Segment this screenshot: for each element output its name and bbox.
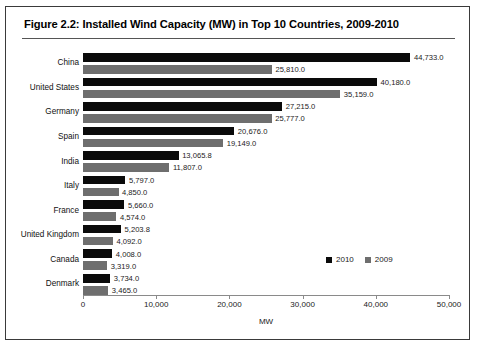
bar-2009-canada	[83, 261, 107, 270]
category-label: Spain	[58, 133, 79, 141]
bar-2010-china	[83, 53, 410, 62]
category-label: India	[61, 158, 79, 166]
bar-2009-spain	[83, 139, 223, 148]
bar-value-label: 5,203.8	[125, 226, 150, 234]
category-label: Germany	[45, 108, 79, 116]
x-tick-label: 0	[81, 301, 85, 309]
x-tick-mark	[229, 295, 230, 299]
category-label: United States	[30, 84, 79, 92]
x-tick-mark	[156, 295, 157, 299]
bar-2010-italy	[83, 176, 125, 185]
bar-value-label: 4,574.0	[120, 214, 145, 222]
bar-2009-united-states	[83, 90, 340, 99]
x-tick-label: 20,000	[217, 301, 241, 309]
bar-value-label: 4,850.0	[122, 189, 147, 197]
category-label: Italy	[64, 182, 79, 190]
bar-2009-denmark	[83, 286, 108, 295]
category-label: Canada	[50, 256, 79, 264]
bar-value-label: 3,319.0	[111, 263, 136, 271]
bar-2010-united-states	[83, 78, 377, 87]
legend-label-2009: 2009	[375, 256, 393, 264]
x-tick-label: 10,000	[144, 301, 168, 309]
bar-value-label: 3,734.0	[114, 275, 139, 283]
bar-2009-italy	[83, 188, 119, 197]
bar-2010-denmark	[83, 274, 110, 283]
bar-value-label: 13,065.8	[182, 152, 212, 160]
bar-value-label: 27,215.0	[286, 103, 316, 111]
x-tick-mark	[303, 295, 304, 299]
bar-2009-india	[83, 163, 169, 172]
bar-2010-france	[83, 200, 124, 209]
bar-2009-china	[83, 65, 272, 74]
x-axis-title: MW	[83, 317, 449, 326]
bar-value-label: 5,660.0	[128, 202, 153, 210]
category-label: France	[54, 207, 79, 215]
x-tick-label: 40,000	[364, 301, 388, 309]
legend-swatch-2009	[365, 257, 371, 263]
x-tick-mark	[449, 295, 450, 299]
bar-2010-germany	[83, 102, 282, 111]
x-tick-mark	[83, 295, 84, 299]
x-axis-line	[83, 295, 449, 296]
bar-value-label: 5,797.0	[129, 177, 154, 185]
bar-2010-spain	[83, 127, 234, 136]
bar-value-label: 3,465.0	[112, 287, 137, 295]
bar-2010-canada	[83, 249, 112, 258]
category-label: China	[58, 59, 79, 67]
bar-value-label: 19,149.0	[227, 140, 257, 148]
x-tick-label: 30,000	[290, 301, 314, 309]
bar-2010-united-kingdom	[83, 225, 121, 234]
chart-legend: 2010 2009	[326, 256, 393, 264]
bar-value-label: 4,092.0	[116, 238, 141, 246]
bar-value-label: 35,159.0	[344, 91, 374, 99]
bar-value-label: 44,733.0	[414, 54, 444, 62]
bar-2009-germany	[83, 114, 272, 123]
bar-value-label: 25,777.0	[275, 115, 305, 123]
x-tick-label: 50,000	[437, 301, 461, 309]
legend-item-2009: 2009	[365, 256, 393, 264]
legend-swatch-2010	[326, 257, 332, 263]
bar-value-label: 4,008.0	[116, 251, 141, 259]
bar-value-label: 11,807.0	[173, 164, 202, 172]
legend-label-2010: 2010	[336, 256, 354, 264]
bar-2009-france	[83, 212, 116, 221]
legend-item-2010: 2010	[326, 256, 354, 264]
x-tick-mark	[376, 295, 377, 299]
figure-frame: Figure 2.2: Installed Wind Capacity (MW)…	[5, 6, 470, 340]
chart-plot-area: 44,733.025,810.040,180.035,159.027,215.0…	[6, 7, 471, 341]
category-label: United Kingdom	[21, 231, 79, 239]
category-label: Denmark	[46, 280, 79, 288]
bar-2009-united-kingdom	[83, 237, 113, 246]
bar-value-label: 20,676.0	[238, 128, 268, 136]
bar-value-label: 40,180.0	[381, 79, 411, 87]
bar-value-label: 25,810.0	[275, 66, 305, 74]
bar-2010-india	[83, 151, 179, 160]
